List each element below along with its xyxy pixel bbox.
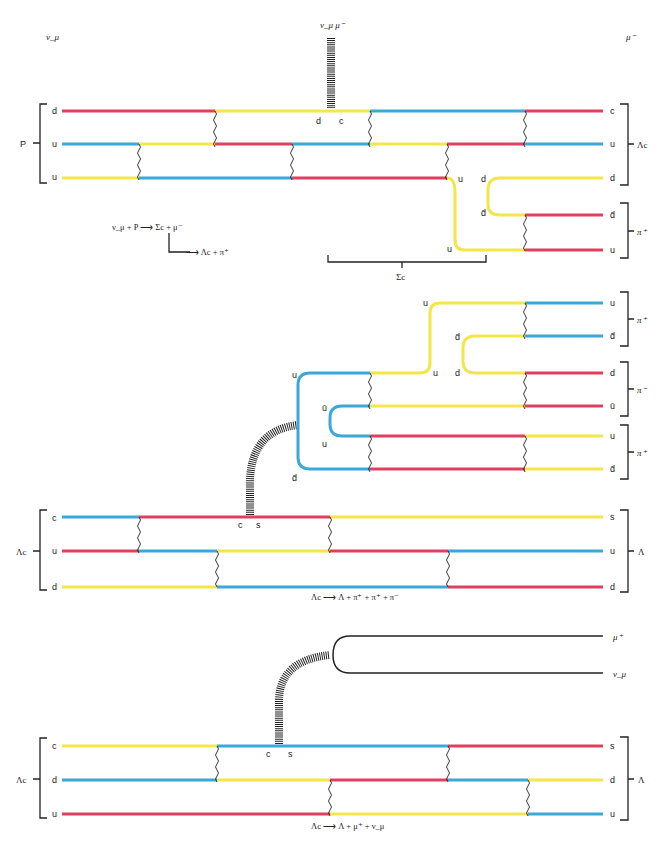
quark-label-u: u	[610, 139, 615, 149]
branch-label-ubar: ū	[322, 403, 327, 413]
proton-label: P	[20, 139, 26, 149]
w-boson-curve	[279, 655, 330, 746]
gluon	[138, 517, 141, 553]
pair-label-u: u	[458, 174, 463, 184]
quark-label-d: d	[52, 582, 57, 592]
quark-pair-line	[488, 178, 603, 215]
quark-label-c: c	[52, 741, 57, 751]
quark-label-c: c	[52, 513, 57, 523]
panel-lambda-c-semileptonic-decay: μ⁺ ν_μ Λc c d u c s s d u Λ Λc ⟶ Λ + μ⁺ …	[16, 632, 645, 831]
pi-plus-bracket	[620, 425, 634, 479]
w-boson-labels: ν_μ μ⁻	[320, 20, 346, 30]
pion-quark-label: ū	[610, 401, 615, 411]
sigma-c-bracket	[328, 255, 486, 268]
gluon	[369, 436, 372, 472]
panel-neutrino-proton-scattering: ν_μ μ⁻ ν_μ μ⁻ P d u u	[20, 20, 648, 282]
vertex-label-s: s	[288, 749, 293, 759]
vertex-label-c: c	[266, 749, 271, 759]
lambda-c-bracket	[33, 738, 47, 818]
gluon	[329, 780, 332, 816]
proton-bracket	[33, 104, 47, 183]
vertex-label-s: s	[256, 520, 261, 530]
pi-plus-label: π⁺	[637, 315, 648, 325]
pi-minus-bracket	[620, 362, 634, 416]
equation-line-2: ⟶ Λc + π⁺	[186, 247, 229, 257]
gluon	[447, 551, 450, 587]
equation-line-1: ν_μ + P ⟶ Σc + μ⁻	[112, 222, 183, 232]
gluon	[524, 215, 527, 251]
w-decay-branch-outer	[298, 373, 370, 469]
gluon	[524, 436, 527, 472]
quark-label-u: u	[52, 139, 57, 149]
pi-plus-label: π⁺	[637, 227, 648, 237]
gluon	[214, 111, 217, 147]
pair-label-u: u	[447, 244, 452, 254]
gluon	[527, 780, 530, 816]
gluon	[329, 517, 332, 553]
neutrino-label: ν_μ	[613, 669, 626, 679]
w-decay-branch-inner	[330, 406, 370, 436]
sigma-c-label: Σc	[396, 272, 405, 282]
quark-flow-diagram: ν_μ μ⁻ ν_μ μ⁻ P d u u	[0, 0, 667, 850]
gluon	[216, 551, 219, 587]
quark-line-u-up	[370, 303, 525, 373]
quark-label-s: s	[610, 512, 615, 522]
gluon	[524, 111, 527, 147]
pair-label-d: d	[481, 174, 486, 184]
quark-label-d: d	[52, 106, 57, 116]
decay-equation: Λc ⟶ Λ + π⁺ + π⁺ + π⁻	[311, 592, 399, 602]
pion-quark-label: d̄	[610, 331, 615, 341]
w-boson-curve	[250, 425, 298, 517]
branch-label-dbar: d̄	[292, 473, 297, 483]
gluon	[291, 144, 294, 180]
quark-label-u: u	[610, 245, 615, 255]
lambda-label: Λ	[638, 547, 645, 557]
inner-label-u: u	[423, 298, 428, 308]
muon-plus-label: μ⁺	[612, 632, 624, 642]
quark-label-u: u	[52, 172, 57, 182]
lambda-bracket	[620, 510, 634, 592]
neutrino-label-top-left: ν_μ	[46, 32, 59, 42]
pion-quark-label: u	[610, 431, 615, 441]
inner-label-d: d	[455, 368, 460, 378]
gluon	[447, 746, 450, 782]
lambda-c-label: Λc	[16, 547, 27, 557]
pion-quark-label: d̄	[610, 464, 615, 474]
lambda-label: Λ	[638, 775, 645, 785]
lambda-c-label: Λc	[16, 775, 27, 785]
gluon	[216, 746, 219, 782]
quark-label-u: u	[610, 809, 615, 819]
quark-label-u: u	[610, 546, 615, 556]
pion-quark-label: d	[610, 368, 615, 378]
lambda-bracket	[620, 737, 634, 820]
muon-label-top-right: μ⁻	[625, 32, 637, 42]
lambda-c-bracket	[620, 104, 634, 185]
quark-label-d: d	[52, 775, 57, 785]
quark-label-dbar: d̄	[610, 210, 615, 220]
pion-quark-label: u	[610, 298, 615, 308]
gluon	[369, 111, 372, 147]
lambda-c-label: Λc	[637, 140, 648, 150]
inner-label-u: u	[433, 368, 438, 378]
vertex-label-c: c	[238, 520, 243, 530]
quark-label-u: u	[52, 546, 57, 556]
pi-plus-bracket	[620, 292, 634, 346]
gluon	[524, 373, 527, 409]
decay-equation: Λc ⟶ Λ + μ⁺ + ν_μ	[311, 821, 385, 831]
quark-label-c: c	[610, 106, 615, 116]
quark-label-s: s	[610, 741, 615, 751]
gluon	[446, 144, 449, 180]
quark-pair-line	[463, 336, 525, 373]
gluon	[138, 144, 141, 180]
quark-label-u: u	[52, 809, 57, 819]
quark-label-d: d	[610, 173, 615, 183]
pi-plus-bracket	[620, 203, 634, 258]
vertex-label-d: d	[316, 116, 321, 126]
pair-label-dbar: d̄	[481, 208, 486, 218]
panel-lambda-c-hadronic-decay: u ū u d̄ u d̄ u d u d̄ π⁺ d ū π⁻ u d̄ π⁺…	[16, 292, 648, 602]
quark-label-d: d	[610, 582, 615, 592]
gluon	[369, 373, 372, 409]
quark-label-d: d	[610, 775, 615, 785]
lambda-c-bracket	[33, 510, 47, 590]
pi-plus-label: π⁺	[637, 448, 648, 458]
